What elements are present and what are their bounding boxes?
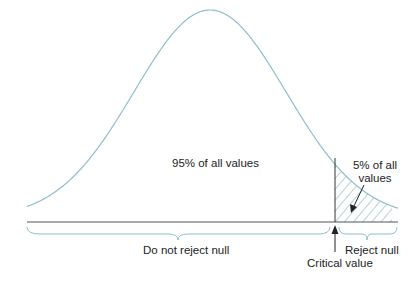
do-not-reject-label: Do not reject null [143,244,229,257]
normal-curve-diagram [0,0,419,284]
critical-value-arrowhead [332,225,339,234]
tail-region-label-line1: 5% of all [345,159,405,172]
tail-region-label: 5% of all values [345,159,405,185]
main-region-label: 95% of all values [172,157,259,170]
do-not-reject-brace [27,227,330,240]
reject-label: Reject null [345,244,399,257]
critical-value-label: Critical value [307,257,373,270]
reject-brace [339,227,397,240]
tail-region-label-line2: values [345,172,405,185]
